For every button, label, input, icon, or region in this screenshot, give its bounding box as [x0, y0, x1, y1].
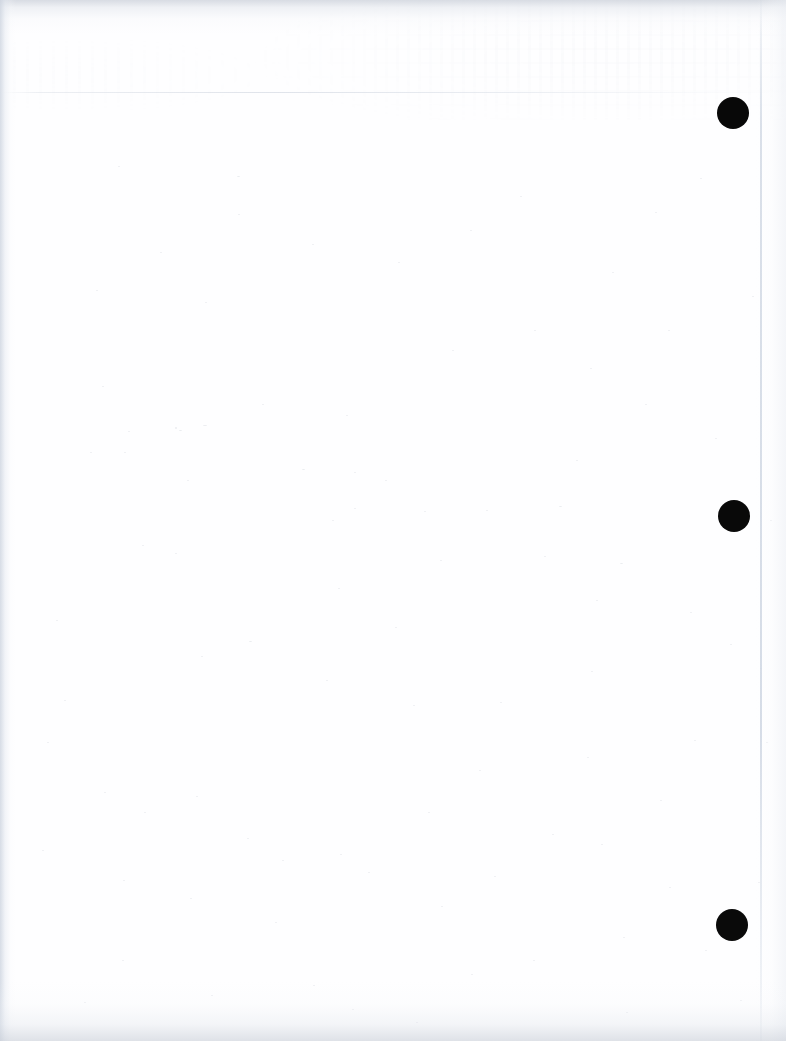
punch-mark-bottom: [716, 909, 748, 941]
paper-sheet: [0, 0, 786, 1041]
punch-mark-top: [717, 97, 749, 129]
punch-mark-middle: [718, 500, 750, 532]
scanned-page: [0, 0, 786, 1041]
